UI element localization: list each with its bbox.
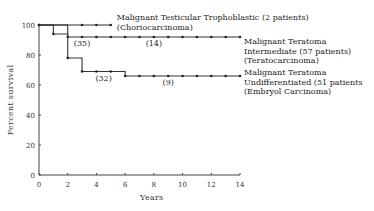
censor-marker [153, 75, 156, 78]
y-tick-label: 60 [26, 82, 35, 90]
y-axis-title: Percent survival [6, 65, 15, 136]
survival-chart: 02468101214020406080100 (35)(14)(32)(9) … [0, 0, 374, 211]
censor-marker [81, 70, 84, 73]
axes: 02468101214020406080100 [22, 22, 245, 190]
patients-at-risk-label: (9) [163, 78, 174, 87]
series-label-line: Intermediate (57 patients) [244, 47, 351, 56]
x-tick-label: 8 [152, 181, 156, 189]
x-tick-label: 2 [65, 181, 69, 189]
series-label-line: Malignant Teratoma [244, 37, 327, 46]
patients-at-risk-label: (35) [74, 39, 90, 48]
censor-marker [124, 75, 127, 78]
series-labels: Malignant Testicular Trophoblastic (2 pa… [117, 13, 363, 96]
x-tick-label: 10 [178, 181, 187, 189]
censor-marker [138, 36, 141, 39]
censor-marker [109, 24, 112, 27]
censor-marker [167, 75, 170, 78]
censor-marker [239, 75, 242, 78]
series-label-line: (Teratocarcinoma) [244, 56, 319, 65]
y-tick-label: 40 [26, 112, 35, 120]
series-label-line: (Choriocarcinoma) [117, 23, 193, 32]
censor-marker [81, 24, 84, 27]
censor-marker [52, 33, 55, 36]
censor-marker [109, 70, 112, 73]
censor-marker [81, 36, 84, 39]
x-tick-label: 14 [236, 181, 245, 189]
series-label-line: Malignant Teratoma [244, 68, 327, 77]
y-tick-label: 80 [26, 52, 35, 60]
censor-marker [138, 75, 141, 78]
censor-marker [181, 75, 184, 78]
patients-at-risk-label: (32) [95, 74, 111, 83]
x-axis-title: Years [139, 193, 164, 202]
series-label-line: Undifferentiated (51 patients [244, 78, 363, 87]
censor-marker [210, 36, 213, 39]
censor-marker [196, 75, 199, 78]
censor-marker [181, 36, 184, 39]
censor-marker [95, 70, 98, 73]
censor-marker [109, 36, 112, 39]
x-tick-label: 6 [123, 181, 128, 189]
censor-marker [66, 57, 69, 60]
censor-marker [95, 36, 98, 39]
censor-marker [210, 75, 213, 78]
y-tick-label: 20 [26, 142, 35, 150]
survival-curve-2: (32)(9) [39, 25, 241, 87]
censor-marker [224, 75, 227, 78]
x-tick-label: 4 [94, 181, 99, 189]
series-label-line: (Embryol Carcinoma) [244, 87, 331, 96]
series-label-line: Malignant Testicular Trophoblastic (2 pa… [117, 13, 309, 22]
survival-curves: (35)(14)(32)(9) [38, 24, 242, 87]
x-tick-label: 12 [207, 181, 216, 189]
x-tick-label: 0 [37, 181, 41, 189]
censor-marker [196, 36, 199, 39]
censor-marker [167, 36, 170, 39]
censor-marker [95, 24, 98, 27]
censor-marker [224, 36, 227, 39]
y-tick-label: 100 [22, 22, 35, 30]
censor-marker [153, 36, 156, 39]
censor-marker [124, 36, 127, 39]
patients-at-risk-label: (14) [146, 39, 162, 48]
y-tick-label: 0 [31, 172, 35, 180]
censor-marker [239, 36, 242, 39]
